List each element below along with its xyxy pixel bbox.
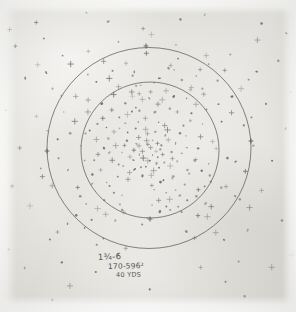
target-sheet: 1¾-6 170-596² 40 YDS [0,0,296,312]
scan-vignette [0,0,296,312]
